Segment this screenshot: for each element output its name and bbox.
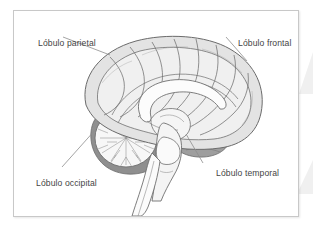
figure-page: Lóbulo parietal Lóbulo frontal Lóbulo oc… <box>0 0 313 232</box>
page-artifact-top <box>299 52 313 94</box>
page-artifact-bottom <box>297 160 313 194</box>
label-lobulo-occipital: Lóbulo occipital <box>36 179 97 188</box>
label-lobulo-temporal: Lóbulo temporal <box>216 169 279 178</box>
label-lobulo-parietal: Lóbulo parietal <box>38 39 96 48</box>
figure-frame: Lóbulo parietal Lóbulo frontal Lóbulo oc… <box>13 10 299 217</box>
label-lobulo-frontal: Lóbulo frontal <box>238 39 291 48</box>
leader-line-occipital <box>62 129 96 167</box>
